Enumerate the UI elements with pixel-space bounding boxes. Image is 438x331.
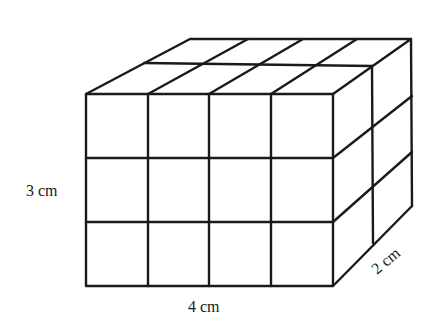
right-face (333, 39, 412, 286)
depth-label: 2 cm (368, 244, 404, 278)
height-label: 3 cm (26, 182, 58, 199)
cuboid-diagram: 3 cm 4 cm 2 cm (0, 0, 438, 331)
top-face (86, 39, 411, 94)
front-face (86, 94, 333, 286)
length-label: 4 cm (188, 298, 220, 315)
